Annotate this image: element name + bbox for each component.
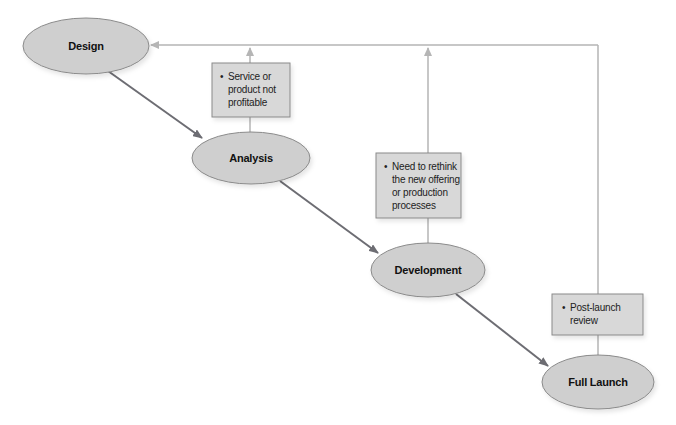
note-line: profitable	[228, 97, 268, 108]
note-analysis: • Service or product not profitable	[212, 63, 290, 117]
note-line: Post-launch	[570, 302, 621, 313]
bullet-icon: •	[384, 161, 388, 172]
arrow-design-to-analysis	[108, 71, 202, 138]
note-line: the new offering	[392, 174, 460, 185]
process-flow-diagram: • Service or product not profitable • Ne…	[0, 0, 676, 425]
node-design: Design	[23, 18, 149, 74]
arrow-analysis-to-development	[280, 181, 378, 253]
note-development: • Need to rethink the new offering or pr…	[376, 153, 461, 218]
node-label: Development	[395, 264, 462, 276]
note-line: processes	[392, 200, 436, 211]
bullet-icon: •	[562, 302, 566, 313]
node-analysis: Analysis	[192, 132, 310, 184]
note-launch: • Post-launch review	[552, 294, 643, 335]
arrow-development-to-launch	[456, 294, 548, 366]
bullet-icon: •	[220, 71, 224, 82]
node-label: Design	[68, 40, 104, 52]
note-line: or production	[392, 187, 448, 198]
node-development: Development	[371, 243, 485, 297]
note-line: Service or	[228, 71, 272, 82]
main-flow-arrows	[108, 71, 548, 366]
node-label: Analysis	[229, 152, 273, 164]
note-line: product not	[228, 84, 276, 95]
node-full-launch: Full Launch	[542, 355, 654, 409]
note-line: review	[570, 315, 599, 326]
node-label: Full Launch	[568, 376, 628, 388]
note-line: Need to rethink	[392, 161, 458, 172]
